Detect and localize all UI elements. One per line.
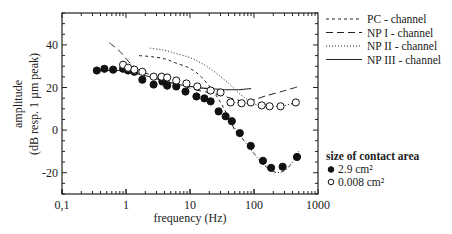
y-axis-title-line2: (dB resp. 1 µm peak) [27,53,41,155]
point-filled [267,164,274,171]
point-filled [259,157,266,164]
legend-label-np1: NP I - channel [367,27,433,39]
x-tick-label: 1000 [306,198,330,212]
point-filled [193,93,200,100]
x-tick-label: 100 [245,198,263,212]
point-filled [110,66,117,73]
point-open [277,103,284,110]
chart: 0,11101001000 -2002040 frequency (Hz) am… [0,0,452,234]
point-open [194,83,201,90]
point-filled [228,118,235,125]
point-filled [164,82,171,89]
marker-legend: size of contact area2.9 cm²0.008 cm² [326,150,420,188]
point-filled [222,113,229,120]
point-filled [279,163,286,170]
x-axis-ticks: 0,11101001000 [55,13,331,212]
point-open [217,89,224,96]
y-axis-ticks: -2002040 [42,13,318,194]
point-open [150,73,157,80]
point-open [238,100,245,107]
channel-legend: PC - channelNP I - channelNP II - channe… [326,13,441,66]
point-filled [182,88,189,95]
y-tick-label: 20 [46,81,58,95]
marker-legend-title: size of contact area [326,150,420,162]
y-tick-label: 40 [46,38,58,52]
y-tick-label: -20 [42,166,58,180]
point-open [266,103,273,110]
legend-label-small: 0.008 cm² [338,176,385,188]
point-filled [93,67,100,74]
point-open [227,99,234,106]
legend-label-large: 2.9 cm² [338,163,373,175]
x-axis-title: frequency (Hz) [154,211,227,225]
point-open [207,87,214,94]
point-filled [236,129,243,136]
curve-pc-channel [139,56,240,137]
point-filled [215,108,222,115]
point-open [139,68,146,75]
point-filled [207,98,214,105]
x-tick-label: 10 [184,198,196,212]
legend-label-np3: NP III - channel [367,54,441,66]
x-tick-label: 1 [123,198,129,212]
point-open [164,74,171,81]
point-open [258,102,265,109]
legend-label-pc: PC - channel [367,13,426,25]
point-open [247,99,254,106]
data-points [93,61,300,171]
point-filled [293,153,300,160]
legend-marker-large [328,167,334,173]
point-open [183,80,190,87]
point-open [131,66,138,73]
legend-marker-small [328,179,334,185]
x-tick-label: 0,1 [55,198,70,212]
point-filled [101,65,108,72]
point-filled [150,81,157,88]
point-filled [139,76,146,83]
point-open [173,77,180,84]
y-axis-title-line1: amplitude [11,80,25,128]
legend-label-np2: NP II - channel [367,40,437,52]
point-open [292,99,299,106]
y-tick-label: 0 [52,123,58,137]
point-filled [247,142,254,149]
